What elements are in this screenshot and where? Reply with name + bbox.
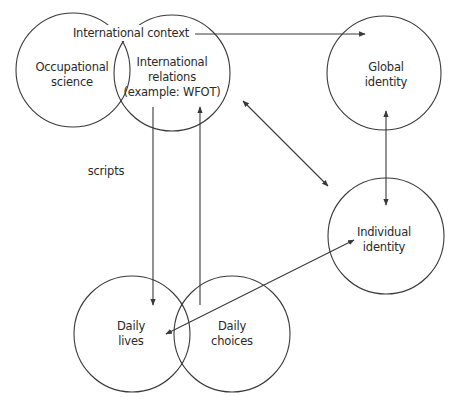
node-line: science — [35, 75, 108, 90]
occupational-science-label: Occupational science — [35, 60, 108, 90]
individual-identity-label: Individual identity — [357, 225, 411, 255]
node-line: Global — [365, 60, 407, 75]
global-identity-label: Global identity — [365, 60, 407, 90]
node-line: (example: WFOT) — [123, 85, 220, 100]
node-line: Daily — [117, 319, 145, 334]
daily-choices-label: Daily choices — [211, 319, 253, 349]
arrow-individual-daily-lives — [166, 240, 354, 334]
node-line: choices — [211, 334, 253, 349]
node-line: lives — [117, 334, 145, 349]
daily-lives-label: Daily lives — [117, 319, 145, 349]
scripts-label: scripts — [88, 164, 125, 179]
node-line: identity — [357, 240, 411, 255]
arrow-relations-individual — [243, 101, 328, 186]
node-line: International — [123, 55, 220, 70]
node-line: Individual — [357, 225, 411, 240]
node-line: identity — [365, 75, 407, 90]
node-line: Daily — [211, 319, 253, 334]
node-line: relations — [123, 70, 220, 85]
international-context-label: International context — [73, 26, 189, 41]
international-relations-label: International relations (example: WFOT) — [123, 55, 220, 100]
node-line: Occupational — [35, 60, 108, 75]
